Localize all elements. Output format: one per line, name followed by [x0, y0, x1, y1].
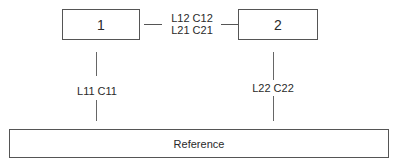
node-2-box: 2	[238, 9, 318, 40]
coupling-label-line2: L21 C21	[164, 24, 220, 36]
node-1-ref-line-lower	[96, 100, 97, 121]
coupling-label-line1: L12 C12	[164, 12, 220, 24]
node-2-ref-label: L22 C22	[242, 82, 304, 94]
coupling-label: L12 C12 L21 C21	[164, 12, 220, 36]
node-2-ref-line-lower	[273, 96, 274, 121]
reference-label: Reference	[174, 138, 225, 150]
node-2-ref-line-upper	[273, 52, 274, 80]
reference-box: Reference	[9, 129, 389, 158]
node-1-box: 1	[62, 9, 140, 40]
node-1-ref-label: L11 C11	[66, 85, 128, 97]
coupling-line-right	[221, 24, 238, 25]
node-1-ref-line-upper	[96, 52, 97, 76]
node-1-label: 1	[97, 17, 105, 33]
coupling-line-left	[144, 24, 162, 25]
node-2-label: 2	[274, 17, 282, 33]
